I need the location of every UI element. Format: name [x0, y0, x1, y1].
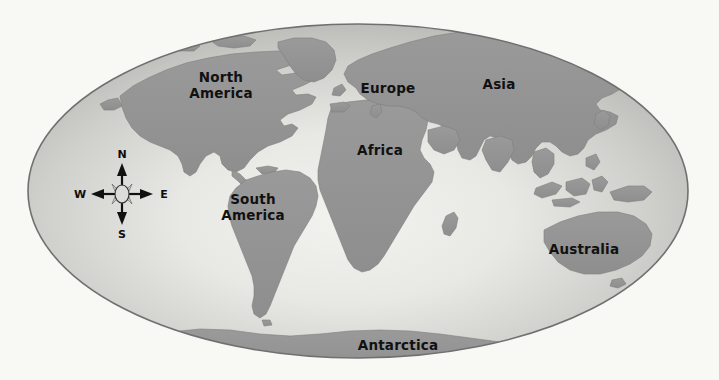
label-australia: Australia — [549, 241, 619, 257]
compass-label-east: E — [160, 188, 168, 201]
world-map-svg: North America Europe Asia Africa South A… — [0, 0, 719, 380]
label-south-america-line1: South — [230, 191, 276, 207]
compass-center-oval — [115, 185, 129, 203]
label-africa: Africa — [357, 142, 403, 158]
label-north-america-line2: America — [189, 85, 252, 101]
world-map-page: North America Europe Asia Africa South A… — [0, 0, 719, 380]
land-tierra-del-fuego — [262, 320, 272, 326]
label-europe: Europe — [361, 80, 416, 96]
compass-label-west: W — [74, 188, 86, 201]
label-north-america-line1: North — [199, 69, 243, 85]
label-south-america-line2: America — [221, 207, 284, 223]
compass-label-north: N — [117, 148, 126, 161]
label-asia: Asia — [482, 76, 515, 92]
compass-label-south: S — [118, 228, 126, 241]
label-antarctica: Antarctica — [358, 337, 438, 353]
